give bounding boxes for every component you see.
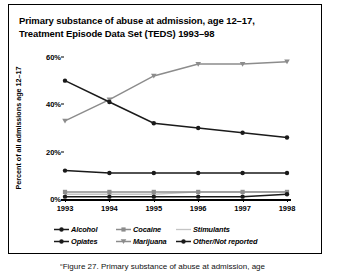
legend-item-other-not-reported[interactable]: Other/Not reported <box>175 237 257 246</box>
series-line <box>65 171 287 173</box>
chart-title: Primary substance of abuse at admission,… <box>19 15 311 40</box>
y-axis-title: Percent of all admissions age 12–17 <box>13 57 25 199</box>
legend-label: Cocaine <box>132 225 161 234</box>
data-point-marker <box>240 194 244 198</box>
data-point-marker <box>285 192 289 196</box>
data-point-marker <box>152 121 156 125</box>
data-point-marker <box>59 227 63 231</box>
legend-item-cocaine[interactable]: Cocaine <box>115 225 175 234</box>
x-axis-tick-label: 1995 <box>145 204 162 213</box>
figure-caption: “Figure 27. Primary substance of abuse a… <box>60 262 330 272</box>
chart-title-line-2: Treatment Episode Data Set (TEDS) 1993–9… <box>19 28 311 41</box>
data-point-marker <box>59 239 63 243</box>
data-point-marker <box>107 190 111 194</box>
x-axis-tick-label: 1997 <box>234 204 251 213</box>
legend-row: OpiatesMarijuanaOther/Not reported <box>53 237 293 246</box>
data-point-marker <box>152 171 156 175</box>
legend-marker-icon <box>53 225 70 234</box>
legend-label: Stimulants <box>192 225 230 234</box>
data-point-marker <box>196 126 200 130</box>
x-axis-tick-label: 1993 <box>57 204 74 213</box>
data-point-marker <box>107 171 111 175</box>
legend-item-stimulants[interactable]: Stimulants <box>175 225 230 234</box>
y-axis-title-label: Percent of all admissions age 12–17 <box>13 57 25 199</box>
x-axis-tick-label: 1996 <box>190 204 207 213</box>
data-point-marker <box>62 119 68 124</box>
data-point-marker <box>240 171 244 175</box>
legend-marker-icon <box>53 237 70 246</box>
data-point-marker <box>241 190 245 194</box>
data-point-marker <box>121 227 125 231</box>
chart-lines <box>59 51 293 205</box>
legend-label: Other/Not reported <box>192 237 257 246</box>
data-point-marker <box>285 171 289 175</box>
series-line <box>65 62 287 121</box>
data-point-marker <box>107 194 111 198</box>
data-point-marker <box>152 194 156 198</box>
legend-row: AlcoholCocaineStimulants <box>53 225 293 234</box>
legend-label: Marijuana <box>132 237 167 246</box>
data-point-marker <box>181 239 185 243</box>
legend-marker-icon <box>175 237 192 246</box>
data-point-marker <box>63 194 67 198</box>
chart-legend: AlcoholCocaineStimulantsOpiatesMarijuana… <box>53 225 293 249</box>
x-axis-tick-label: 1998 <box>279 204 296 213</box>
data-point-marker <box>196 171 200 175</box>
legend-marker-icon <box>115 237 132 246</box>
legend-marker-icon <box>115 225 132 234</box>
plot-area: 0%20%40%60% 199319941995199619971998 <box>65 57 287 199</box>
legend-marker-icon <box>175 225 192 234</box>
legend-label: Opiates <box>70 237 97 246</box>
legend-item-opiates[interactable]: Opiates <box>53 237 115 246</box>
chart-title-line-1: Primary substance of abuse at admission,… <box>19 15 311 28</box>
x-axis-tick-label: 1994 <box>101 204 118 213</box>
data-point-marker <box>107 100 111 104</box>
data-point-marker <box>285 135 289 139</box>
legend-label: Alcohol <box>70 225 97 234</box>
series-other-not-reported <box>63 168 289 175</box>
data-point-marker <box>63 168 67 172</box>
series-marijuana <box>62 60 290 124</box>
data-point-marker <box>152 190 156 194</box>
data-point-marker <box>63 78 67 82</box>
data-point-marker <box>63 190 67 194</box>
series-line <box>65 81 287 138</box>
data-point-marker <box>196 194 200 198</box>
legend-item-marijuana[interactable]: Marijuana <box>115 237 175 246</box>
figure-panel: Primary substance of abuse at admission,… <box>8 4 322 254</box>
legend-item-alcohol[interactable]: Alcohol <box>53 225 115 234</box>
series-alcohol <box>63 78 289 139</box>
data-point-marker <box>240 131 244 135</box>
data-point-marker <box>196 190 200 194</box>
